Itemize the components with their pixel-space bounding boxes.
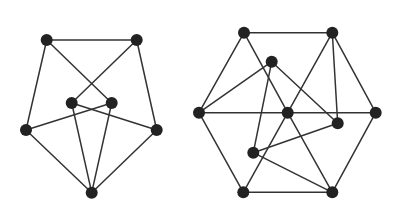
edge-R-W	[253, 62, 271, 153]
edge-P-S	[199, 33, 244, 113]
pentagon-graph	[20, 34, 163, 199]
edge-R-V	[272, 62, 338, 124]
node-W	[247, 147, 259, 159]
node-X	[237, 186, 249, 198]
node-A	[41, 34, 53, 46]
node-S	[193, 107, 205, 119]
graph-diagram-canvas	[0, 0, 400, 215]
node-G	[86, 187, 98, 199]
edge-B-F	[137, 40, 157, 130]
node-E	[20, 124, 32, 136]
node-T	[282, 107, 294, 119]
node-U	[370, 107, 382, 119]
edge-F-G	[92, 130, 157, 193]
edge-B-C	[72, 40, 137, 103]
edge-Q-T	[288, 33, 333, 113]
edge-S-X	[199, 113, 243, 193]
edge-P-T	[244, 33, 288, 113]
node-V	[332, 117, 344, 129]
edge-Q-U	[332, 33, 375, 113]
edge-A-E	[26, 40, 47, 130]
node-R	[266, 56, 278, 68]
edge-A-D	[47, 40, 112, 103]
edge-E-G	[26, 130, 92, 193]
node-D	[106, 97, 118, 109]
node-P	[238, 27, 250, 39]
edges	[26, 40, 157, 193]
edge-C-G	[72, 103, 92, 193]
edge-R-S	[199, 62, 272, 113]
edge-D-G	[92, 103, 112, 193]
node-Y	[326, 186, 338, 198]
hexagon-graph	[193, 27, 382, 199]
node-B	[131, 34, 143, 46]
node-Q	[326, 27, 338, 39]
node-F	[151, 124, 163, 136]
edge-Q-V	[332, 33, 337, 124]
node-C	[66, 97, 78, 109]
